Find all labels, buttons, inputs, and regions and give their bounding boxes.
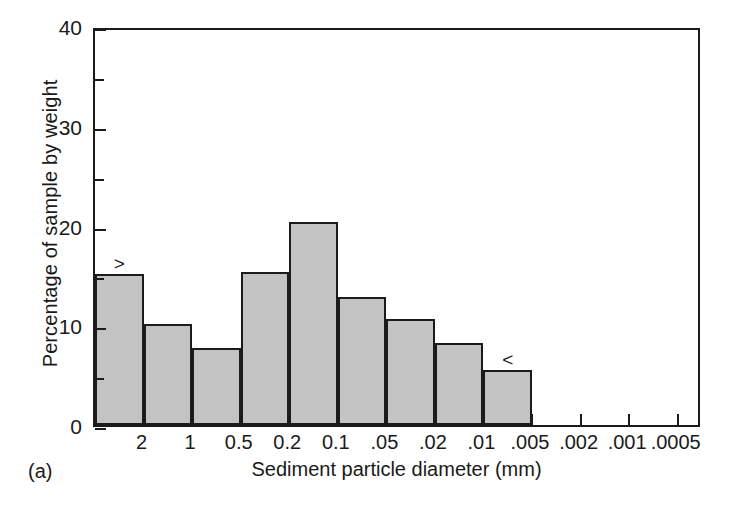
y-tick-minor <box>95 79 104 81</box>
y-tick-label: 10 <box>36 316 82 337</box>
histogram-bar <box>435 343 484 425</box>
bar-series <box>95 30 698 425</box>
x-tick-label: .005 <box>511 430 550 454</box>
x-tick-label: .002 <box>559 430 598 454</box>
x-tick <box>240 414 242 425</box>
y-tick-major <box>95 229 106 231</box>
x-tick <box>531 414 533 425</box>
y-tick-label: 30 <box>36 117 82 138</box>
y-tick-major <box>95 328 106 330</box>
x-tick <box>385 414 387 425</box>
x-tick <box>482 414 484 425</box>
y-axis-tick-labels: 010203040 <box>10 0 82 508</box>
x-tick-label: .001 <box>608 430 647 454</box>
x-tick-label: .01 <box>468 430 496 454</box>
y-tick-label: 40 <box>36 17 82 38</box>
x-tick-label: 2 <box>136 430 147 454</box>
y-tick-major <box>95 29 106 31</box>
plot-area: >< <box>93 28 700 427</box>
histogram-bar <box>338 297 387 425</box>
y-tick-minor <box>95 378 104 380</box>
x-tick <box>191 414 193 425</box>
x-tick-label: .05 <box>370 430 398 454</box>
histogram-bar <box>241 272 290 425</box>
x-tick <box>628 414 630 425</box>
x-tick <box>580 414 582 425</box>
y-tick-major <box>95 129 106 131</box>
histogram-bar <box>192 348 241 425</box>
x-tick <box>337 414 339 425</box>
x-axis-title: Sediment particle diameter (mm) <box>93 458 700 481</box>
x-tick-label: 0.5 <box>225 430 253 454</box>
histogram-bar <box>483 370 532 425</box>
y-tick-label: 0 <box>36 416 82 437</box>
x-tick-label: .0005 <box>651 430 701 454</box>
x-tick-label: 0.1 <box>322 430 350 454</box>
bar-annotation: > <box>114 254 125 273</box>
x-tick <box>288 414 290 425</box>
x-axis-tick-labels: 210.50.20.1.05.02.01.005.002.001.0005 <box>93 430 700 460</box>
x-tick-label: 0.2 <box>273 430 301 454</box>
x-tick <box>143 414 145 425</box>
histogram-bar <box>144 324 193 425</box>
panel-letter: (a) <box>28 460 52 483</box>
y-tick-minor <box>95 179 104 181</box>
x-tick-label: 1 <box>185 430 196 454</box>
histogram-bar <box>95 274 144 425</box>
y-tick-label: 20 <box>36 217 82 238</box>
y-tick-minor <box>95 278 104 280</box>
x-tick-label: .02 <box>419 430 447 454</box>
histogram-bar <box>386 319 435 425</box>
x-tick <box>677 414 679 425</box>
bar-annotation: < <box>502 350 513 369</box>
sediment-particle-size-histogram: Percentage of sample by weight 010203040… <box>0 0 730 508</box>
x-tick <box>434 414 436 425</box>
histogram-bar <box>289 222 338 425</box>
